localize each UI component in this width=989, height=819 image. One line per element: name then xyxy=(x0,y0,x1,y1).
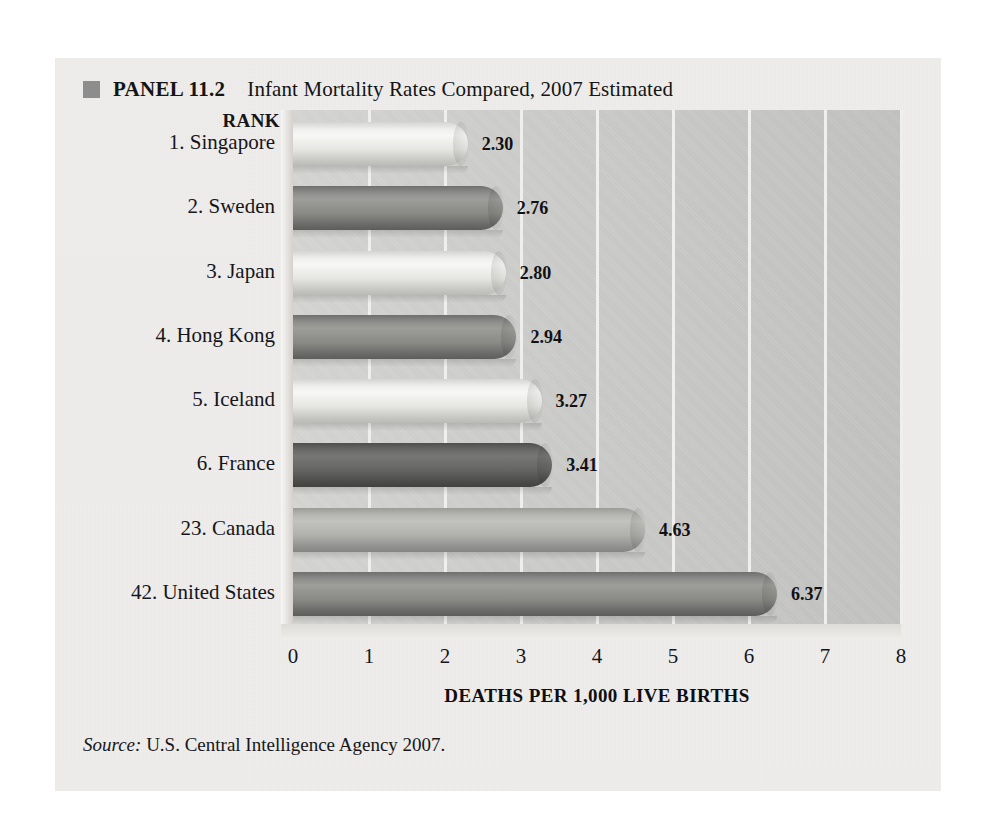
x-tick-label: 2 xyxy=(425,644,465,669)
x-tick-label: 6 xyxy=(729,644,769,669)
bar-end-cap xyxy=(501,315,517,359)
category-label: 6. France xyxy=(60,451,275,476)
value-label: 2.30 xyxy=(482,134,514,155)
bar-fill xyxy=(293,251,506,295)
rank-column-header: RANK xyxy=(175,110,280,132)
bar xyxy=(293,508,645,552)
bar-end-cap xyxy=(762,572,778,616)
bar xyxy=(293,251,506,295)
category-label: 42. United States xyxy=(60,580,275,605)
x-tick-label: 4 xyxy=(577,644,617,669)
gridline xyxy=(672,110,675,624)
category-label: 5. Iceland xyxy=(60,387,275,412)
value-label: 6.37 xyxy=(791,584,823,605)
bar-fill xyxy=(293,379,542,423)
bar-fill xyxy=(293,443,552,487)
category-label: 23. Canada xyxy=(60,516,275,541)
bar xyxy=(293,443,552,487)
panel-card: PANEL 11.2 Infant Mortality Rates Compar… xyxy=(55,58,941,791)
bar-fill xyxy=(293,122,468,166)
plot-left-wall xyxy=(281,110,293,640)
bar-fill xyxy=(293,508,645,552)
value-label: 4.63 xyxy=(659,520,691,541)
source-prefix: Source: xyxy=(83,734,141,755)
plot-floor xyxy=(281,624,901,640)
bar xyxy=(293,122,468,166)
value-label: 2.94 xyxy=(530,327,562,348)
bar xyxy=(293,315,516,359)
bar-fill xyxy=(293,186,503,230)
category-label: 3. Japan xyxy=(60,259,275,284)
value-label: 2.80 xyxy=(520,263,552,284)
bar-end-cap xyxy=(453,122,469,166)
bar xyxy=(293,572,777,616)
bar-fill xyxy=(293,572,777,616)
bar xyxy=(293,379,542,423)
gridline xyxy=(824,110,827,624)
bar-end-cap xyxy=(630,508,646,552)
x-axis-label: DEATHS PER 1,000 LIVE BIRTHS xyxy=(293,685,901,707)
source-note: Source: U.S. Central Intelligence Agency… xyxy=(83,734,445,756)
bar-end-cap xyxy=(491,251,507,295)
x-tick-label: 3 xyxy=(501,644,541,669)
bar-fill xyxy=(293,315,516,359)
source-text: U.S. Central Intelligence Agency 2007. xyxy=(146,734,445,755)
bar-end-cap xyxy=(537,443,553,487)
x-tick-label: 5 xyxy=(653,644,693,669)
bar-end-cap xyxy=(527,379,543,423)
x-tick-label: 1 xyxy=(349,644,389,669)
value-label: 3.41 xyxy=(566,455,598,476)
x-tick-label: 0 xyxy=(273,644,313,669)
category-label: 1. Singapore xyxy=(60,130,275,155)
bar-end-cap xyxy=(488,186,504,230)
gridline xyxy=(748,110,751,624)
value-label: 3.27 xyxy=(556,391,588,412)
bar xyxy=(293,186,503,230)
category-label: 4. Hong Kong xyxy=(60,323,275,348)
x-tick-label: 7 xyxy=(805,644,845,669)
gridline xyxy=(900,110,903,624)
x-tick-label: 8 xyxy=(881,644,921,669)
bar-chart: RANK 1. Singapore2.302. Sweden2.763. Jap… xyxy=(55,58,941,791)
figure-page: PANEL 11.2 Infant Mortality Rates Compar… xyxy=(0,0,989,819)
category-label: 2. Sweden xyxy=(60,194,275,219)
value-label: 2.76 xyxy=(517,198,549,219)
